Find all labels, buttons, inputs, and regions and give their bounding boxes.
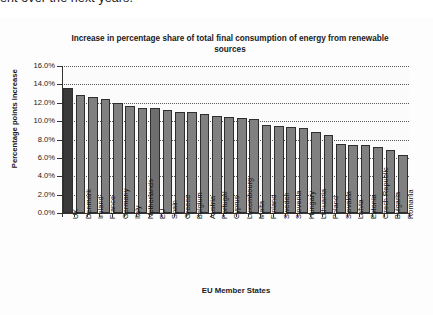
y-axis-tick-label: 10.0% xyxy=(15,117,55,125)
y-axis-tick-mark xyxy=(57,140,62,141)
gridline xyxy=(62,84,409,85)
bar-spain xyxy=(163,110,173,213)
y-axis-tick-mark xyxy=(57,84,62,85)
x-axis-label-sweden: Sweden xyxy=(282,192,291,219)
x-axis-tick-mark xyxy=(87,213,88,217)
y-axis-tick-label: 16.0% xyxy=(15,62,55,70)
x-axis-tick-mark xyxy=(136,213,137,217)
x-axis-tick-mark xyxy=(174,213,175,217)
x-axis-label-estonia: Estonia xyxy=(369,194,378,219)
x-axis-label-germany: Germany xyxy=(121,189,130,219)
x-axis-tick-mark xyxy=(62,213,63,217)
bar-uk xyxy=(63,88,73,213)
x-axis-label-netherlands: Netherlands xyxy=(146,179,155,219)
x-axis-label-hungary: Hungary xyxy=(307,191,316,219)
x-axis-label-austria: Austria xyxy=(208,196,217,219)
x-axis-label-france: France xyxy=(108,196,117,219)
x-axis-label-spain: Spain xyxy=(170,200,179,219)
x-axis-tick-mark xyxy=(99,213,100,217)
y-axis-tick-mark xyxy=(57,103,62,104)
x-axis-tick-mark xyxy=(359,213,360,217)
x-axis-tick-mark xyxy=(297,213,298,217)
x-axis-tick-mark xyxy=(273,213,274,217)
x-axis-tick-mark xyxy=(161,213,162,217)
plot-area xyxy=(62,66,409,213)
x-axis-tick-mark xyxy=(322,213,323,217)
x-axis-label-uk: UK xyxy=(71,209,80,219)
x-axis-label-ireland: Ireland xyxy=(96,196,105,219)
x-axis-tick-mark xyxy=(384,213,385,217)
x-axis-label-czech-republic: Czech Republic xyxy=(381,167,390,219)
x-axis-tick-mark xyxy=(260,213,261,217)
x-axis-tick-mark xyxy=(198,213,199,217)
x-axis-label-lithuania: Lithuania xyxy=(319,189,328,219)
y-axis-tick-labels: 16.0%14.0%12.0%10.0%8.0%6.0%4.0%2.0%0.0% xyxy=(10,18,55,315)
y-axis-tick-label: 12.0% xyxy=(15,99,55,107)
x-axis-label-poland: Poland xyxy=(331,196,340,219)
y-axis-tick-mark xyxy=(57,121,62,122)
x-axis-label-malta: Malta xyxy=(257,201,266,219)
x-axis-tick-mark xyxy=(124,213,125,217)
x-axis-label-slovakia: Slovakia xyxy=(344,191,353,219)
x-axis-label-luxembourg: Luxembourg xyxy=(245,178,254,219)
y-axis-tick-label: 14.0% xyxy=(15,80,55,88)
y-axis-tick-label: 6.0% xyxy=(15,154,55,162)
x-axis-label-denmark: Denmark xyxy=(84,189,93,219)
y-axis-tick-label: 2.0% xyxy=(15,191,55,199)
x-axis-label-romania: Romania xyxy=(406,189,415,219)
x-axis-label-cyprus: Cyprus xyxy=(232,196,241,219)
x-axis-tick-mark xyxy=(335,213,336,217)
y-axis-tick-mark xyxy=(57,176,62,177)
x-axis-tick-mark xyxy=(409,213,410,217)
bar-chart-figure: Increase in percentage share of total fi… xyxy=(0,18,433,315)
y-axis-tick-label: 4.0% xyxy=(15,172,55,180)
y-axis-tick-mark xyxy=(57,66,62,67)
x-axis-label-latvia: Latvia xyxy=(356,199,365,219)
x-axis-label-eu: EU xyxy=(158,209,167,219)
x-axis-label-belgium: Belgium xyxy=(195,192,204,219)
x-axis-label-portugal: Portugal xyxy=(220,191,229,219)
y-axis-line xyxy=(62,66,63,214)
x-axis-title: EU Member States xyxy=(62,286,410,295)
x-axis-tick-mark xyxy=(372,213,373,217)
gridline xyxy=(62,66,409,67)
x-axis-label-slovenia: Slovenia xyxy=(294,191,303,219)
x-axis-tick-mark xyxy=(285,213,286,217)
y-axis-tick-label: 0.0% xyxy=(15,209,55,217)
x-axis-tick-mark xyxy=(236,213,237,217)
y-axis-tick-label: 8.0% xyxy=(15,136,55,144)
x-axis-tick-mark xyxy=(186,213,187,217)
x-axis-tick-mark xyxy=(397,213,398,217)
x-axis-tick-mark xyxy=(310,213,311,217)
x-axis-tick-mark xyxy=(149,213,150,217)
x-axis-tick-mark xyxy=(112,213,113,217)
x-axis-tick-mark xyxy=(223,213,224,217)
x-axis-label-bulgaria: Bulgaria xyxy=(393,192,402,219)
chart-title: Increase in percentage share of total fi… xyxy=(55,33,405,55)
x-axis-label-finland: Finland xyxy=(269,195,278,219)
x-axis-label-greece: Greece xyxy=(183,195,192,219)
document-text-fragment: ent over the next years. xyxy=(0,0,433,14)
x-axis-tick-mark xyxy=(347,213,348,217)
document-cutoff-line: ent over the next years. xyxy=(0,0,133,5)
y-axis-tick-mark xyxy=(57,158,62,159)
x-axis-label-italy: Italy xyxy=(133,205,142,219)
x-axis-tick-mark xyxy=(248,213,249,217)
x-axis-tick-mark xyxy=(74,213,75,217)
x-axis-tick-mark xyxy=(211,213,212,217)
y-axis-tick-mark xyxy=(57,195,62,196)
